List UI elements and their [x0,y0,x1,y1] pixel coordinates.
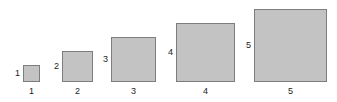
square-side-label-1: 1 [10,69,20,78]
square-bottom-label-3: 3 [124,87,144,96]
square-side-label-2: 2 [49,62,59,71]
square-bottom-label-5: 5 [281,87,301,96]
square-bottom-label-2: 2 [68,87,88,96]
square-side-label-5: 5 [241,41,251,50]
square-shape-5 [254,9,327,82]
square-shape-4 [176,23,235,82]
square-bottom-label-1: 1 [22,87,42,96]
square-shape-1 [23,65,40,82]
square-bottom-label-4: 4 [196,87,216,96]
square-side-label-4: 4 [163,48,173,57]
squares-figure: 1122334455 [0,0,337,102]
square-side-label-3: 3 [98,55,108,64]
square-shape-2 [62,51,93,82]
square-shape-3 [111,37,156,82]
